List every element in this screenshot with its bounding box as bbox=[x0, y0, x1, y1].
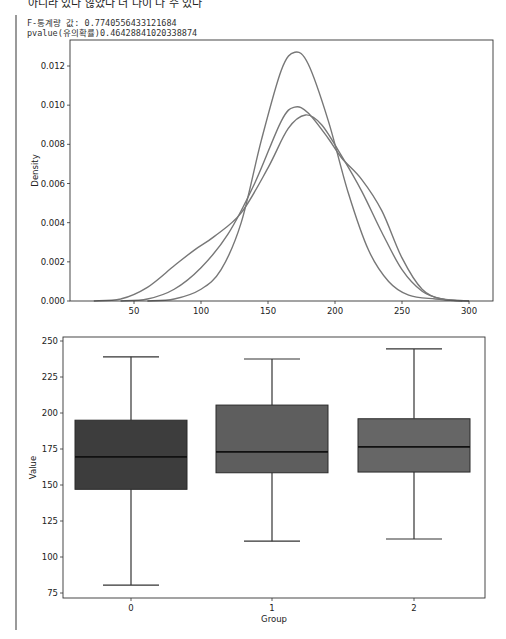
box-group-0 bbox=[75, 357, 187, 585]
y-tick-label: 75 bbox=[47, 588, 58, 598]
group-boxplot-chart: 75100125150175200225250012GroupValue bbox=[0, 0, 506, 639]
y-tick-label: 100 bbox=[42, 552, 58, 562]
iqr-box bbox=[75, 420, 187, 489]
y-axis-label: Value bbox=[28, 456, 38, 479]
box-group-2 bbox=[358, 349, 470, 539]
x-axis-label: Group bbox=[261, 614, 287, 624]
y-tick-label: 150 bbox=[42, 480, 58, 490]
box-group-1 bbox=[216, 359, 328, 541]
iqr-box bbox=[216, 405, 328, 473]
iqr-box bbox=[358, 419, 470, 472]
y-tick-label: 225 bbox=[42, 372, 58, 382]
y-tick-label: 250 bbox=[42, 336, 58, 346]
x-tick-label: 2 bbox=[411, 603, 416, 613]
y-tick-label: 125 bbox=[42, 516, 58, 526]
y-tick-label: 200 bbox=[42, 408, 58, 418]
y-tick-label: 175 bbox=[42, 444, 58, 454]
x-tick-label: 0 bbox=[128, 603, 133, 613]
x-tick-label: 1 bbox=[269, 603, 274, 613]
